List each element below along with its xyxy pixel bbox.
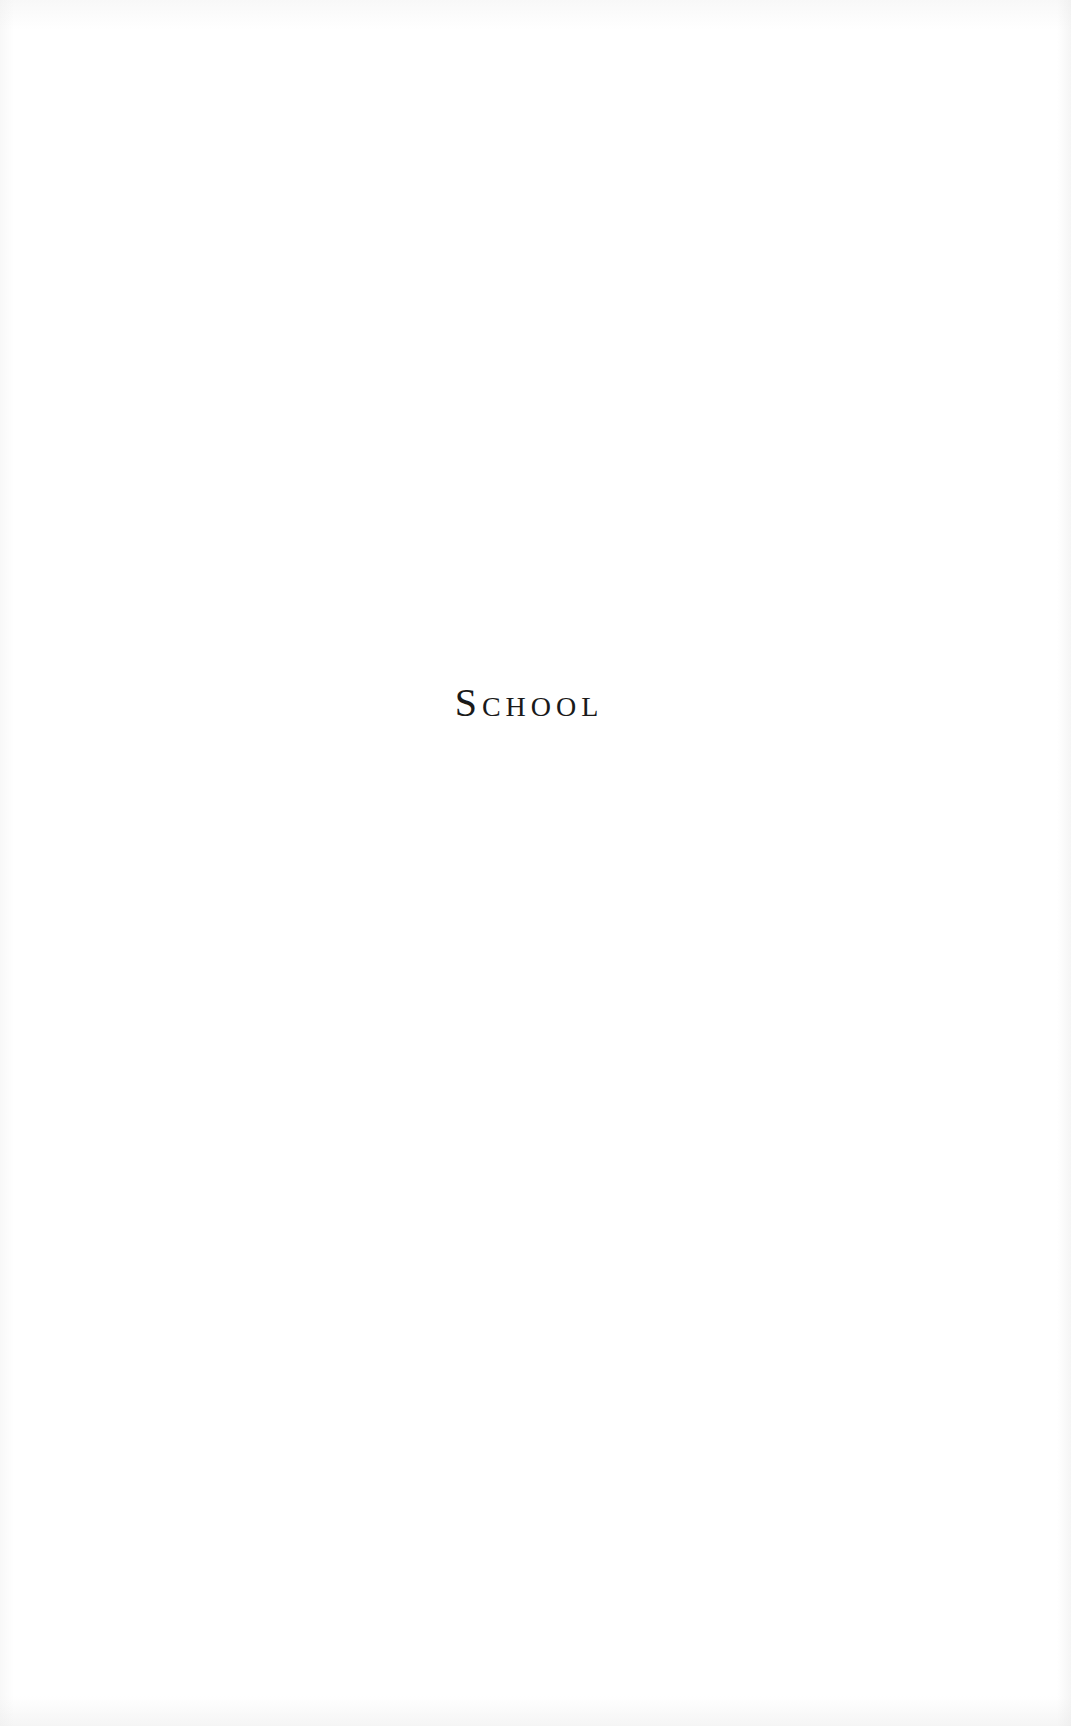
section-title: School bbox=[0, 683, 1058, 723]
scan-edge-bottom bbox=[0, 1696, 1071, 1726]
scan-edge-right bbox=[1057, 0, 1071, 1726]
book-page: School bbox=[0, 0, 1071, 1726]
scan-edge-left bbox=[0, 0, 14, 1726]
scan-edge-top bbox=[0, 0, 1071, 30]
